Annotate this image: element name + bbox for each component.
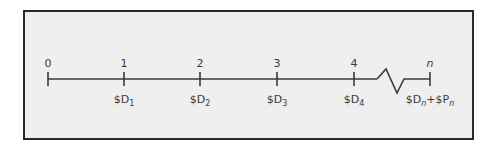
period-label-1: 1	[121, 57, 128, 70]
period-label-0: 0	[45, 57, 52, 70]
period-label-3: 3	[274, 57, 281, 70]
cash-flow-label-n: $Dn+$Pn	[406, 93, 454, 108]
period-label-n: n	[427, 57, 434, 70]
period-label-2: 2	[197, 57, 204, 70]
cash-flow-timeline-diagram: 0 1 2 3 4 n $D1 $D2 $D3 $D4 $Dn+$Pn	[0, 0, 497, 150]
diagram-frame	[24, 11, 473, 139]
period-label-4: 4	[351, 57, 358, 70]
